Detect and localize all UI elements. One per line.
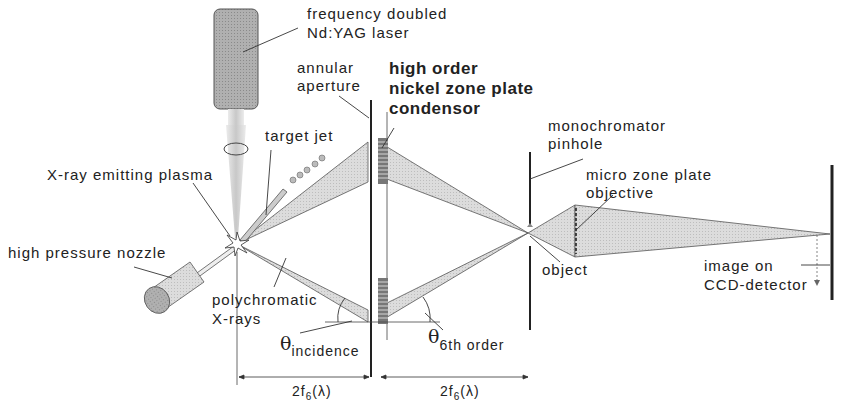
label-condensor-3: condensor (389, 99, 480, 118)
label-nozzle: high pressure nozzle (8, 244, 166, 261)
label-theta-incidence: θincidence (280, 332, 360, 359)
label-polychromatic-2: X-rays (212, 310, 261, 327)
converging-beam-upper (379, 142, 528, 233)
label-annular-2: aperture (297, 77, 361, 94)
object-beam (528, 205, 575, 257)
label-image-1: image on (704, 257, 774, 274)
label-condensor-2: nickel zone plate (389, 79, 534, 98)
label-distance-left: 2f6(λ) (292, 383, 332, 402)
label-monochromator-2: pinhole (548, 135, 603, 152)
label-laser-2: Nd:YAG laser (307, 24, 410, 41)
label-theta-6th-order: θ6th order (428, 325, 505, 353)
label-object: object (542, 261, 588, 278)
label-objective-1: micro zone plate (586, 166, 712, 183)
laser (214, 9, 258, 238)
label-annular-1: annular (297, 59, 354, 76)
label-laser-1: frequency doubled (307, 5, 447, 22)
xray-cone-upper (237, 142, 368, 244)
label-image-2: CCD-detector (704, 276, 808, 293)
label-polychromatic-1: polychromatic (212, 291, 318, 308)
imaging-beam (575, 205, 830, 257)
label-monochromator-1: monochromator (548, 117, 666, 134)
label-target-jet: target jet (265, 127, 333, 144)
zone-plate-condensor-upper (378, 138, 388, 184)
distance-markers (239, 375, 528, 379)
xray-microscope-diagram: frequency doubled Nd:YAG laser annular a… (0, 0, 851, 407)
label-objective-2: objective (586, 184, 654, 201)
label-distance-right: 2f6(λ) (440, 383, 480, 402)
high-pressure-nozzle (139, 262, 204, 318)
label-plasma: X-ray emitting plasma (47, 166, 213, 183)
zone-plate-condensor-lower (378, 278, 388, 324)
converging-beam-lower (379, 233, 528, 322)
label-condensor-1: high order (389, 59, 478, 78)
